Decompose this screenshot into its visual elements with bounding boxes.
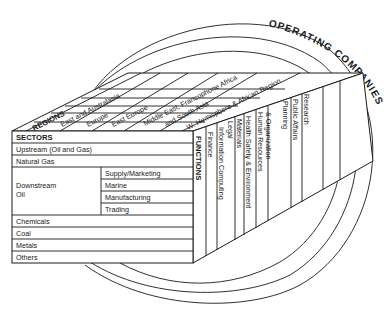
function-public-affairs: Public Affairs	[291, 99, 300, 141]
functions-title: FUNCTIONS	[194, 136, 203, 180]
sector-manufacturing: Manufacturing	[105, 193, 151, 202]
function-information-computing: Information Computing	[217, 127, 226, 200]
sector-trading: Trading	[105, 205, 129, 214]
matrix-diagram: OPERATING COMPANIES REGIONS East and Aus…	[0, 0, 387, 323]
function-planning: Planning	[281, 101, 290, 129]
sectors-title: SECTORS	[16, 133, 53, 142]
function-organization: & Organization	[264, 112, 273, 160]
sector-coal: Coal	[16, 229, 31, 238]
sector-natural-gas: Natural Gas	[16, 157, 55, 166]
function-research: Research	[302, 94, 311, 125]
function-human-resources: Human Resources	[256, 112, 265, 172]
sector-supply-marketing: Supply/Marketing	[105, 169, 161, 178]
function-materials: Materials	[235, 119, 244, 149]
function-finance: Finance	[206, 132, 215, 158]
sector-others: Others	[16, 253, 38, 262]
sector-downstream-oil: Oil	[16, 190, 25, 199]
sector-metals: Metals	[16, 241, 38, 250]
sector-marine: Marine	[105, 181, 127, 190]
function-health-safety: Health Safety & Environment	[244, 116, 253, 208]
sector-upstream: Upstream (Oil and Gas)	[16, 145, 92, 154]
function-legal: Legal	[226, 121, 235, 139]
sector-chemicals: Chemicals	[16, 217, 50, 226]
sector-downstream: Downstream	[16, 181, 56, 190]
